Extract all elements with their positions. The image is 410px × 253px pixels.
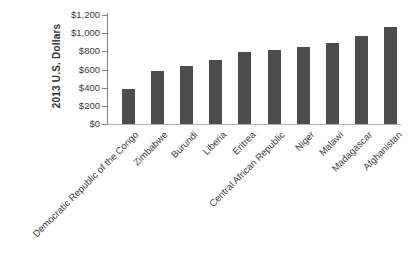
bar <box>355 36 368 124</box>
x-axis-label: Democratic Republic of the Congo <box>31 129 141 239</box>
y-tick-label: $800 <box>54 46 100 56</box>
y-axis-line <box>107 13 108 124</box>
x-axis-label: Niger <box>292 129 316 153</box>
bar <box>384 27 397 124</box>
x-axis-label: Eritrea <box>230 129 258 157</box>
bar <box>268 50 281 124</box>
y-tick-label: $1,000 <box>54 28 100 38</box>
y-tick-label: $600 <box>54 65 100 75</box>
y-tick-label: $400 <box>54 83 100 93</box>
bar <box>151 71 164 124</box>
bar <box>180 66 193 124</box>
x-axis-label: Burundi <box>168 129 199 160</box>
bar <box>122 89 135 124</box>
bar <box>238 52 251 124</box>
bar <box>297 47 310 124</box>
y-tick-label: $200 <box>54 101 100 111</box>
x-axis-line <box>107 124 401 125</box>
bar <box>209 60 222 124</box>
y-tick-label: $0 <box>54 119 100 129</box>
bar-chart: 2013 U.S. Dollars $0$200$400$600$800$1,0… <box>0 0 410 253</box>
y-tick-label: $1,200 <box>54 10 100 20</box>
x-axis-label: Liberia <box>200 129 228 157</box>
bar <box>326 43 339 124</box>
